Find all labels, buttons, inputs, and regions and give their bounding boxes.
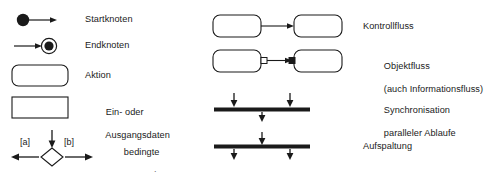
- start-node-icon: [14, 8, 64, 32]
- legend-row-startknoten: Startknoten: [0, 8, 200, 32]
- control-flow-icon: [212, 12, 344, 40]
- legend-right-column: Kontrollfluss Objektfluss: [200, 0, 487, 172]
- legend-row-endknoten: Endknoten: [0, 34, 200, 58]
- legend-row-objektfluss: Objektfluss (auch Informationsfluss): [200, 47, 487, 77]
- legend-label-line1: Synchronisation: [384, 105, 450, 115]
- action-node-icon: [11, 63, 71, 89]
- legend-guard-label-b: [b]: [64, 137, 74, 148]
- data-node-icon: [11, 95, 71, 121]
- legend-label-line2: Verzweigung: [124, 170, 177, 172]
- legend-row-aktion: Aktion: [0, 63, 200, 89]
- uml-activity-legend: Startknoten Endknoten Aktion: [0, 0, 487, 172]
- legend-label-kontrollfluss: Kontrollfluss: [363, 21, 414, 32]
- legend-row-kontrollfluss: Kontrollfluss: [200, 12, 487, 40]
- legend-row-bedingte-verzweigung: [a] [b] bedingte Verzweigung: [0, 126, 200, 170]
- legend-left-column: Startknoten Endknoten Aktion: [0, 0, 200, 172]
- end-node-icon: [11, 34, 65, 58]
- legend-row-ein-ausgangsdaten: Ein- oder Ausgangsdaten: [0, 95, 200, 121]
- legend-label-line1: Ein- oder: [106, 107, 144, 117]
- legend-guard-label-a: [a]: [20, 137, 30, 148]
- legend-label-line1: Objektfluss: [384, 61, 430, 71]
- fork-bar-icon: [212, 131, 324, 163]
- legend-row-synchronisation: Synchronisation paralleler Ablaufe: [200, 92, 487, 124]
- legend-label-line1: bedingte: [124, 147, 160, 157]
- legend-label-aufspaltung: Aufspaltung: [363, 141, 412, 152]
- legend-label-aktion: Aktion: [85, 70, 111, 81]
- legend-label-startknoten: Startknoten: [85, 14, 133, 25]
- object-flow-icon: [212, 47, 344, 77]
- join-bar-icon: [212, 92, 324, 124]
- legend-row-aufspaltung: Aufspaltung: [200, 131, 487, 163]
- legend-label-bedingte-verzweigung: bedingte Verzweigung: [103, 135, 177, 172]
- legend-label-endknoten: Endknoten: [85, 40, 129, 51]
